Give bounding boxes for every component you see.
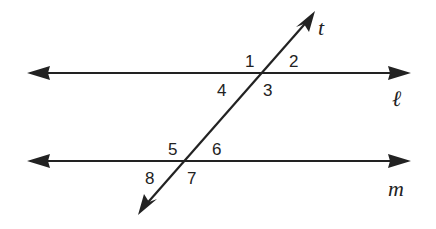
angle-label-4: 4	[217, 81, 226, 100]
angle-label-1: 1	[245, 52, 254, 71]
angle-label-7: 7	[187, 169, 196, 188]
arrowhead-l-left	[27, 66, 50, 80]
arrowhead-l-right	[388, 66, 411, 80]
label-l: ℓ	[392, 86, 402, 111]
line-t	[143, 18, 310, 208]
arrowhead-m-right	[388, 154, 411, 168]
diagram-canvas: t ℓ m 1 2 3 4 5 6 7 8	[0, 0, 436, 229]
angle-label-6: 6	[212, 140, 221, 159]
label-t: t	[318, 15, 325, 40]
arrowhead-t-top	[296, 11, 315, 32]
arrowhead-m-left	[27, 154, 50, 168]
label-m: m	[388, 176, 404, 201]
angle-label-8: 8	[145, 169, 154, 188]
diagram-svg: t ℓ m 1 2 3 4 5 6 7 8	[0, 0, 436, 229]
angle-label-2: 2	[289, 52, 298, 71]
arrowhead-t-bottom	[138, 194, 157, 215]
angle-label-3: 3	[263, 81, 272, 100]
angle-label-5: 5	[168, 140, 177, 159]
